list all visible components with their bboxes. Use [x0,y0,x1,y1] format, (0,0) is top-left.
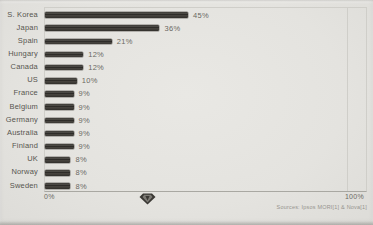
bar-value-label: 45% [193,11,209,20]
bar-row: 12% [45,48,104,61]
category-label: Hungary [8,47,38,60]
bar-value-label: 9% [79,129,90,138]
bar [45,183,70,189]
category-label: Canada [11,60,38,73]
bar-row: 12% [45,61,104,74]
bar-row: 45% [45,9,209,22]
source-note: Sources: Ipsos MORI[1] & Nova[1] [277,204,367,210]
bar-row: 8% [45,166,87,179]
category-labels-column: S. KoreaJapanSpainHungaryCanadaUSFranceB… [0,7,40,192]
category-label: Australia [7,126,38,139]
bar-value-label: 9% [79,142,90,151]
category-label: US [27,73,38,86]
bar-value-label: 8% [75,168,86,177]
x-axis-tick-100: 100% [345,193,364,200]
category-label: Norway [11,165,38,178]
bar-value-label: 21% [117,37,133,46]
gridline-100-percent [347,8,348,191]
bar-value-label: 8% [75,182,86,191]
scan-edge-top [0,0,373,2]
bar-row: 9% [45,127,90,140]
bar [45,91,74,97]
bar [45,144,74,150]
bar-row: 9% [45,87,90,100]
bar-value-label: 12% [88,50,104,59]
bar-row: 9% [45,114,90,127]
bar [45,12,188,18]
x-axis-tick-0: 0% [44,193,55,200]
bar [45,65,83,71]
bar-row: 36% [45,22,180,35]
category-label: Sweden [10,179,38,192]
bar-value-label: 8% [75,155,86,164]
bar-row: 9% [45,101,90,114]
scan-edge-bottom [0,221,373,225]
plot-area: 45%36%21%12%12%10%9%9%9%9%9%8%8%8% [44,7,367,192]
gem-diamond-icon [139,193,156,205]
bar-row: 8% [45,180,87,193]
bar-value-label: 9% [79,103,90,112]
bar [45,157,70,163]
bar [45,170,70,176]
bar [45,104,74,110]
category-label: Spain [18,34,38,47]
bar-value-label: 9% [79,116,90,125]
category-label: Belgium [10,100,39,113]
bar-row: 21% [45,35,133,48]
bar [45,25,159,31]
category-label: UK [27,152,38,165]
category-label: Finland [12,139,38,152]
bar-value-label: 10% [82,76,98,85]
bar-row: 10% [45,74,98,87]
bar-value-label: 36% [164,24,180,33]
bar-chart: S. KoreaJapanSpainHungaryCanadaUSFranceB… [0,0,373,225]
bar [45,39,112,45]
bar-value-label: 12% [88,63,104,72]
category-label: S. Korea [7,8,38,21]
category-label: Japan [17,21,38,34]
category-label: France [13,86,38,99]
bar [45,118,74,124]
bar [45,131,74,137]
bar-value-label: 9% [79,89,90,98]
category-label: Germany [6,113,38,126]
bar [45,78,77,84]
bar-row: 9% [45,140,90,153]
bar-row: 8% [45,153,87,166]
bar [45,52,83,58]
